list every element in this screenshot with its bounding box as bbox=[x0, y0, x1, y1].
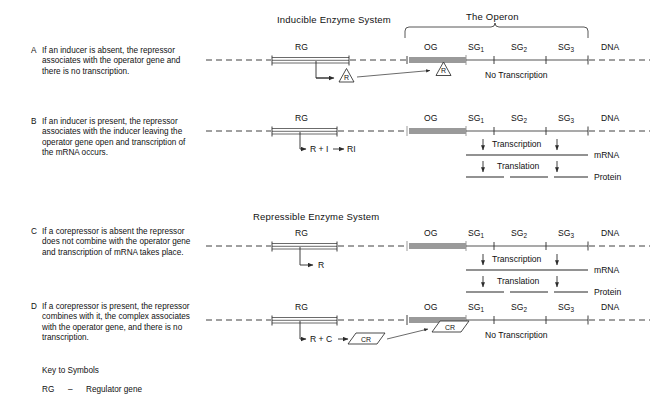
row-c-protein-label: Protein bbox=[594, 287, 621, 297]
row-d-sg2-text: SG bbox=[511, 302, 523, 312]
row-a-sg1-label: SG1 bbox=[468, 42, 484, 52]
row-a-og-label: OG bbox=[424, 42, 437, 52]
key-symbol-rg: RG bbox=[42, 385, 68, 394]
row-b-translation-label: Translation bbox=[497, 161, 539, 171]
row-c-sg3-label: SG3 bbox=[558, 228, 574, 238]
row-a-graphics: R R bbox=[206, 23, 650, 82]
row-d-no-transcription: No Transcription bbox=[485, 330, 548, 340]
row-c-reaction-product: R bbox=[318, 260, 324, 270]
row-d-dna-label: DNA bbox=[601, 302, 619, 312]
row-b-graphics bbox=[206, 126, 650, 177]
row-d-sg2-sub: 2 bbox=[523, 306, 527, 313]
row-b-sg2-text: SG bbox=[511, 113, 523, 123]
row-c-sg1-label: SG1 bbox=[468, 228, 484, 238]
row-a-sg3-sub: 3 bbox=[570, 46, 574, 53]
repressor-symbol-a1: R bbox=[344, 74, 349, 81]
corepressor-symbol-d2: CR bbox=[445, 324, 455, 331]
row-a-description: If an inducer is absent, the repressor a… bbox=[42, 46, 192, 77]
row-c-sg2-text: SG bbox=[511, 228, 523, 238]
row-d-sg1-label: SG1 bbox=[468, 302, 484, 312]
row-c-letter: C bbox=[31, 227, 37, 236]
key-meaning-rg: Regulator gene bbox=[86, 385, 142, 394]
row-a-sg3-label: SG3 bbox=[558, 42, 574, 52]
row-b-sg3-text: SG bbox=[558, 113, 570, 123]
row-a-sg3-text: SG bbox=[558, 42, 570, 52]
row-b-reaction-reactants: R + I bbox=[310, 144, 328, 154]
row-c-transcription-label: Transcription bbox=[492, 254, 541, 264]
row-c-dna-label: DNA bbox=[601, 228, 619, 238]
row-b-protein-label: Protein bbox=[594, 172, 621, 182]
row-d-og-label: OG bbox=[424, 302, 437, 312]
operon-title: The Operon bbox=[466, 11, 519, 22]
row-d-rg-label: RG bbox=[295, 302, 308, 312]
row-d-sg3-text: SG bbox=[558, 302, 570, 312]
row-d-graphics: CR CR bbox=[206, 315, 650, 344]
row-b-description: If an inducer is present, the repressor … bbox=[42, 117, 192, 159]
row-c-description: If a corepressor is absent the repressor… bbox=[42, 227, 192, 258]
row-b-transcription-label: Transcription bbox=[492, 139, 541, 149]
row-a-rg-label: RG bbox=[295, 42, 308, 52]
inducible-system-title: Inducible Enzyme System bbox=[277, 14, 391, 25]
row-c-rg-label: RG bbox=[295, 228, 308, 238]
row-a-sg2-label: SG2 bbox=[511, 42, 527, 52]
row-a-sg1-text: SG bbox=[468, 42, 480, 52]
row-b-sg2-label: SG2 bbox=[511, 113, 527, 123]
row-b-sg1-label: SG1 bbox=[468, 113, 484, 123]
row-d-sg1-text: SG bbox=[468, 302, 480, 312]
row-c-sg3-sub: 3 bbox=[570, 232, 574, 239]
row-d-sg3-label: SG3 bbox=[558, 302, 574, 312]
row-d-sg3-sub: 3 bbox=[570, 306, 574, 313]
row-d-letter: D bbox=[31, 302, 37, 311]
row-a-dna-label: DNA bbox=[601, 42, 619, 52]
row-c-sg2-sub: 2 bbox=[523, 232, 527, 239]
row-a-sg1-sub: 1 bbox=[480, 46, 484, 53]
figure-canvas: R R bbox=[0, 0, 667, 403]
row-b-letter: B bbox=[31, 117, 36, 126]
row-b-og-label: OG bbox=[424, 113, 437, 123]
row-b-reaction-product: RI bbox=[347, 144, 356, 154]
row-c-sg1-sub: 1 bbox=[480, 232, 484, 239]
row-d-reaction-reactants: R + C bbox=[310, 334, 332, 344]
row-c-og-label: OG bbox=[424, 228, 437, 238]
key-title: Key to Symbols bbox=[42, 366, 99, 375]
row-c-translation-label: Translation bbox=[497, 276, 539, 286]
row-d-description: If a corepressor is present, the repress… bbox=[42, 302, 192, 344]
row-b-sg3-sub: 3 bbox=[570, 117, 574, 124]
row-c-sg1-text: SG bbox=[468, 228, 480, 238]
row-c-sg3-text: SG bbox=[558, 228, 570, 238]
row-b-mrna-label: mRNA bbox=[594, 150, 619, 160]
row-a-letter: A bbox=[31, 46, 36, 55]
key-entry-rg: RG–Regulator gene bbox=[42, 385, 142, 394]
row-c-sg2-label: SG2 bbox=[511, 228, 527, 238]
row-a-no-transcription: No Transcription bbox=[485, 70, 548, 80]
repressible-system-title: Repressible Enzyme System bbox=[253, 211, 379, 222]
row-b-rg-label: RG bbox=[295, 113, 308, 123]
row-b-sg1-text: SG bbox=[468, 113, 480, 123]
key-dash: – bbox=[68, 385, 86, 394]
row-b-dna-label: DNA bbox=[601, 113, 619, 123]
repressor-symbol-a2: R bbox=[441, 67, 446, 74]
row-d-sg2-label: SG2 bbox=[511, 302, 527, 312]
row-a-sg2-sub: 2 bbox=[523, 46, 527, 53]
row-c-mrna-label: mRNA bbox=[594, 265, 619, 275]
row-d-sg1-sub: 1 bbox=[480, 306, 484, 313]
row-b-sg3-label: SG3 bbox=[558, 113, 574, 123]
corepressor-symbol-d1: CR bbox=[361, 336, 371, 343]
row-c-graphics bbox=[206, 241, 650, 292]
row-b-sg1-sub: 1 bbox=[480, 117, 484, 124]
row-a-sg2-text: SG bbox=[511, 42, 523, 52]
row-b-sg2-sub: 2 bbox=[523, 117, 527, 124]
